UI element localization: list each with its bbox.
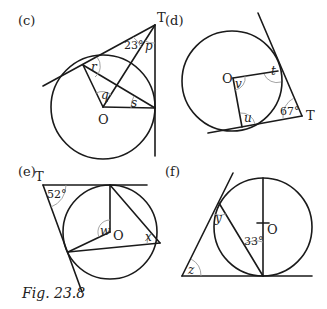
panel-e: (e) T O 52° w x (18, 164, 160, 292)
angle-r-label: r (91, 60, 98, 74)
tangent-left-c (43, 25, 155, 86)
panel-d-label: (d) (165, 13, 183, 28)
angle-v-label: v (235, 77, 242, 91)
angle-s-label: s (131, 96, 137, 110)
angle-w-label: w (100, 224, 111, 238)
point-T-d: T (306, 108, 315, 123)
angle-52-label: 52° (47, 188, 67, 201)
point-O-d: O (222, 71, 233, 86)
angle-q-label: q (101, 88, 109, 102)
panel-f-label: (f) (165, 164, 180, 179)
tangent-left-f (182, 173, 233, 276)
tangent-left-e (43, 185, 82, 292)
radius-right-c (103, 107, 155, 108)
figure-caption: Fig. 23.8 (21, 285, 85, 301)
chord-bottom-e (68, 243, 160, 252)
angle-x-label: x (145, 230, 152, 244)
angle-u-label: u (244, 111, 252, 125)
tangent-upper-d (258, 13, 302, 116)
angle-p-label: p (145, 39, 153, 53)
angle-67-label: 67° (280, 105, 300, 118)
angle-23-label: 23° (124, 39, 144, 52)
panel-c-label: (c) (18, 13, 35, 28)
figure-23-8: (c) T O 23° p q r s (d) O T 67° t (0, 0, 327, 309)
point-O-e: O (113, 228, 124, 243)
point-O-c: O (98, 112, 109, 127)
panel-f: (f) O 33° y z (165, 164, 312, 277)
angle-t-label: t (271, 64, 276, 78)
point-T-e: T (35, 169, 44, 184)
panel-d: (d) O T 67° t u v (165, 13, 315, 133)
panel-e-label: (e) (18, 164, 36, 179)
point-O-f: O (267, 222, 278, 237)
tangent-lower-d (208, 116, 302, 133)
angle-33-label: 33° (244, 235, 264, 248)
angle-z-label: z (187, 263, 195, 277)
angle-y-label: y (214, 211, 222, 225)
panel-c: (c) T O 23° p q r s (18, 10, 166, 159)
